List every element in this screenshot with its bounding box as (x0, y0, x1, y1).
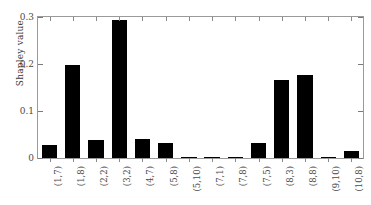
x-tick-label: (8,8) (309, 166, 318, 186)
bar (42, 145, 57, 158)
bar (297, 75, 312, 158)
bar (112, 20, 127, 158)
y-tick-label: 0.3 (5, 13, 34, 22)
x-tick-mark (282, 158, 283, 162)
x-tick-label: (1,8) (77, 166, 86, 186)
x-tick-label: (10,8) (355, 166, 364, 192)
bar-slot (228, 17, 243, 158)
x-tick-mark (235, 17, 236, 21)
x-tick-mark (142, 17, 143, 21)
x-tick-mark (96, 158, 97, 162)
bar-slot (251, 17, 266, 158)
x-tick-mark (351, 158, 352, 162)
x-tick-label: (1,7) (54, 166, 63, 186)
x-tick-mark (166, 17, 167, 21)
x-tick-label: (5,10) (193, 166, 202, 192)
x-tick-mark (142, 158, 143, 162)
bar-slot (181, 17, 196, 158)
y-tick-label: 0 (5, 154, 34, 163)
x-tick-label: (7,1) (216, 166, 225, 186)
bar-slot (42, 17, 57, 158)
x-tick-mark (119, 158, 120, 162)
bar-slot (204, 17, 219, 158)
bar (65, 65, 80, 158)
x-tick-label: (5,8) (170, 166, 179, 186)
bar-slot (112, 17, 127, 158)
x-tick-mark (189, 17, 190, 21)
bar-slot (274, 17, 289, 158)
x-tick-label: (4,7) (146, 166, 155, 186)
x-tick-mark (73, 158, 74, 162)
bar (88, 140, 103, 158)
bar-slot (65, 17, 80, 158)
bar-slot (88, 17, 103, 158)
bar (274, 80, 289, 158)
x-tick-label: (8,3) (286, 166, 295, 186)
y-tick-mark (38, 158, 43, 159)
y-tick-mark (358, 158, 363, 159)
x-tick-mark (328, 158, 329, 162)
x-tick-label: (7,5) (263, 166, 272, 186)
y-tick-label: 0.2 (5, 60, 34, 69)
x-tick-mark (282, 17, 283, 21)
x-tick-mark (259, 17, 260, 21)
x-tick-mark (212, 17, 213, 21)
x-tick-label: (3,2) (123, 166, 132, 186)
x-tick-label: (9,10) (332, 166, 341, 192)
x-tick-mark (305, 17, 306, 21)
x-tick-label: (2,2) (100, 166, 109, 186)
bar (251, 143, 266, 158)
x-tick-mark (259, 158, 260, 162)
x-tick-label: (7,8) (239, 166, 248, 186)
bar (135, 139, 150, 158)
x-tick-mark (50, 158, 51, 162)
bar-series (38, 17, 363, 158)
plot-area: 00.10.20.3 (1,7)(1,8)(2,2)(3,2)(4,7)(5,8… (37, 16, 364, 159)
x-tick-mark (73, 17, 74, 21)
x-tick-mark (119, 17, 120, 21)
x-tick-mark (50, 17, 51, 21)
bar-slot (158, 17, 173, 158)
y-tick-label: 0.1 (5, 107, 34, 116)
x-tick-mark (305, 158, 306, 162)
x-tick-mark (235, 158, 236, 162)
x-tick-mark (212, 158, 213, 162)
bar-slot (321, 17, 336, 158)
bar-slot (344, 17, 359, 158)
x-tick-mark (351, 17, 352, 21)
x-tick-mark (328, 17, 329, 21)
bar (158, 143, 173, 158)
x-tick-mark (189, 158, 190, 162)
shapley-value-bar-chart: Shapley value 00.10.20.3 (1,7)(1,8)(2,2)… (0, 0, 371, 205)
bar-slot (135, 17, 150, 158)
x-tick-mark (96, 17, 97, 21)
x-tick-mark (166, 158, 167, 162)
bar (344, 151, 359, 158)
bar-slot (297, 17, 312, 158)
